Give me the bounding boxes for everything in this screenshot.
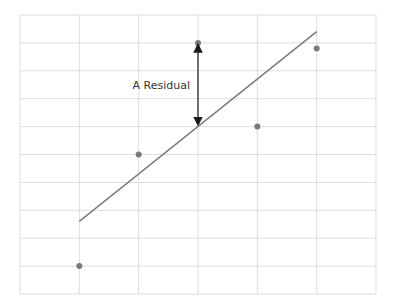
data-point — [314, 45, 320, 51]
data-point — [254, 124, 260, 130]
data-point — [76, 263, 82, 269]
data-point — [195, 40, 201, 46]
residual-chart: A Residual — [0, 0, 394, 303]
residual-label: A Residual — [133, 79, 190, 92]
data-point — [136, 152, 142, 158]
